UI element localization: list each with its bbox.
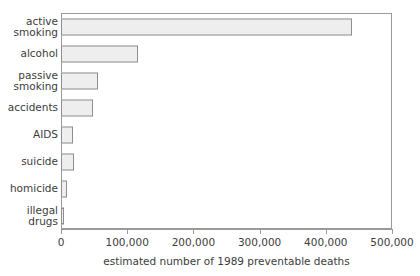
bar (61, 45, 138, 62)
category-label: AIDS (0, 129, 58, 141)
bar-chart: active smokingalcoholpassive smokingacci… (0, 0, 420, 276)
bar (61, 126, 73, 143)
category-label: accidents (0, 102, 58, 114)
bar-row: illegal drugs (0, 202, 420, 229)
x-axis-tick (127, 229, 128, 234)
x-axis-tick (326, 229, 327, 234)
x-axis-tick-label: 0 (58, 236, 65, 248)
category-label: passive smoking (0, 69, 58, 92)
x-axis-tick-label: 400,000 (304, 236, 347, 248)
bar (61, 18, 352, 35)
category-label: illegal drugs (0, 204, 58, 227)
x-axis-title: estimated number of 1989 preventable dea… (0, 255, 420, 267)
bar (61, 99, 93, 116)
bar-row: passive smoking (0, 67, 420, 94)
x-axis-tick-label: 100,000 (105, 236, 148, 248)
bar (61, 180, 67, 197)
bar (61, 153, 74, 170)
x-axis-tick (260, 229, 261, 234)
bar-row: suicide (0, 148, 420, 175)
category-label: active smoking (0, 15, 58, 38)
x-axis-tick-label: 300,000 (238, 236, 281, 248)
x-axis-tick-label: 500,000 (370, 236, 413, 248)
bar-row: alcohol (0, 40, 420, 67)
x-axis-tick (61, 229, 62, 234)
category-label: alcohol (0, 48, 58, 60)
bar-row: active smoking (0, 13, 420, 40)
x-axis-tick (392, 229, 393, 234)
bar-row: homicide (0, 175, 420, 202)
bar (61, 72, 98, 89)
x-axis-tick-label: 200,000 (172, 236, 215, 248)
category-label: suicide (0, 156, 58, 168)
bar (61, 207, 64, 224)
bar-row: AIDS (0, 121, 420, 148)
category-label: homicide (0, 183, 58, 195)
x-axis-line (61, 229, 392, 230)
x-axis-tick (193, 229, 194, 234)
bar-row: accidents (0, 94, 420, 121)
